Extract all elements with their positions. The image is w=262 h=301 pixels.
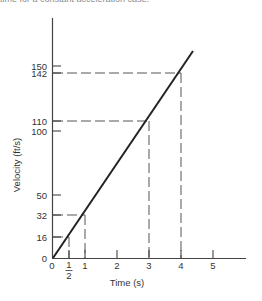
velocity-line [53,51,193,258]
y-tick-label: 110 [32,116,47,127]
x-tick-label: 5 [210,260,215,271]
x-tick-label: 4 [178,260,183,271]
y-tick-label: 0 [42,253,47,264]
y-tick-label: 150 [31,61,47,72]
y-ticks: 0163250100110142150 [31,61,61,264]
x-axis-title: Time (s) [110,277,144,288]
y-tick-label: 50 [36,190,47,201]
x-tick-label: 2 [114,260,119,271]
y-tick-label: 100 [31,126,47,137]
y-tick-label: 32 [36,210,47,221]
y-axis-title: Velocity (ft/s) [11,138,22,192]
y-tick-label: 16 [36,232,47,243]
x-tick-label: 3 [146,260,151,271]
velocity-time-chart: 0163250100110142150 01212345 Time (s) Ve… [0,0,262,301]
x-tick-label-denominator: 2 [66,270,71,281]
x-tick-label-numerator: 1 [66,259,71,270]
x-tick-label: 1 [82,260,87,271]
x-tick-label: 0 [49,260,54,271]
